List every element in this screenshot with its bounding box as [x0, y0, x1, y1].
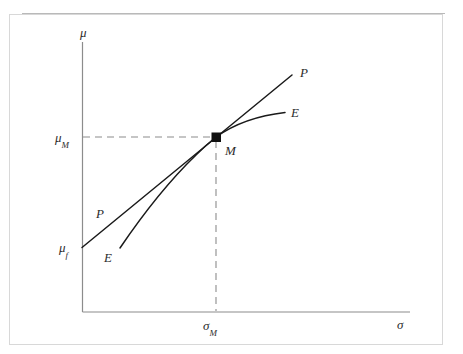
curve-label-e-upper: E: [291, 106, 299, 119]
y-axis-label: μ: [80, 26, 87, 39]
market-portfolio-marker: [212, 133, 222, 143]
curve-label-p-upper: P: [300, 66, 308, 79]
curve-e-efficient-frontier: [120, 113, 285, 249]
plot-canvas: [0, 0, 463, 354]
market-portfolio-label: M: [225, 144, 236, 157]
x-axis-label: σ: [397, 318, 403, 331]
mu-m-subscript: M: [62, 140, 70, 150]
sigma-m-subscript: M: [209, 328, 217, 338]
x-tick-label-sigma-m: σM: [203, 319, 217, 336]
y-tick-label-mu-m: μM: [55, 131, 69, 148]
curve-label-e-lower: E: [104, 251, 112, 264]
mu-f-subscript: f: [66, 250, 69, 260]
mu-f-base: μ: [59, 240, 66, 255]
curve-label-p-lower: P: [96, 207, 104, 220]
figure-root: μ σ μM μf σM P E P E M: [0, 0, 463, 354]
curve-p-capital-market-line: [82, 75, 292, 248]
y-tick-label-mu-f: μf: [59, 241, 68, 258]
mu-m-base: μ: [55, 130, 62, 145]
